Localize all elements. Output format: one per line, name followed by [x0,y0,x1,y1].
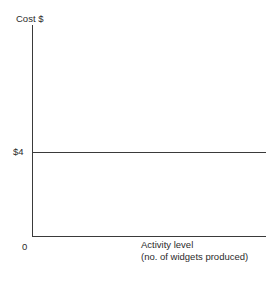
fixed-cost-line-chart: Cost $ $4 0 Activity level (no. of widge… [0,0,278,282]
x-axis-title: Activity level (no. of widgets produced) [141,239,248,262]
x-axis-title-line-2: (no. of widgets produced) [141,251,248,263]
y-axis-title: Cost $ [16,13,43,25]
x-axis-line [32,236,266,237]
y-axis-tick-label-4: $4 [13,146,24,158]
fixed-cost-series-line [32,152,266,153]
origin-label: 0 [22,241,27,253]
x-axis-title-line-1: Activity level [141,239,193,250]
y-axis-line [32,25,33,237]
